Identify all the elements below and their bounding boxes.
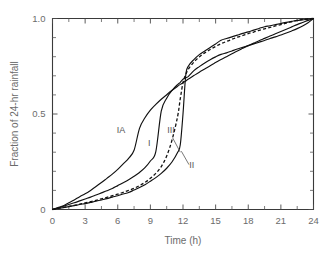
- x-axis-title: Time (h): [165, 235, 202, 246]
- chart-page: 0369121518212400.51.0Time (h)Fraction of…: [0, 0, 330, 262]
- y-tick-label: 0.5: [32, 108, 45, 119]
- y-tick-label: 0: [40, 204, 45, 215]
- x-tick-label: 24: [308, 215, 319, 226]
- curve-label-I: I: [148, 138, 151, 148]
- x-tick-label: 15: [210, 215, 221, 226]
- curve-label-IA: IA: [117, 125, 126, 135]
- x-tick-label: 3: [82, 215, 87, 226]
- x-tick-label: 21: [276, 215, 287, 226]
- x-tick-label: 18: [243, 215, 254, 226]
- x-tick-label: 0: [50, 215, 55, 226]
- x-tick-label: 9: [148, 215, 153, 226]
- leader-line-III: [173, 138, 181, 152]
- y-tick-label: 1.0: [32, 13, 45, 24]
- x-tick-label: 12: [178, 215, 189, 226]
- y-axis-title: Fraction of 24-hr rainfall: [9, 61, 20, 167]
- curve-label-III: III: [167, 125, 175, 135]
- leader-line-II: [181, 151, 189, 164]
- curve-label-II: II: [189, 160, 194, 170]
- rainfall-distribution-chart: 0369121518212400.51.0Time (h)Fraction of…: [0, 0, 330, 262]
- series-line-III: [53, 19, 314, 210]
- x-tick-label: 6: [115, 215, 120, 226]
